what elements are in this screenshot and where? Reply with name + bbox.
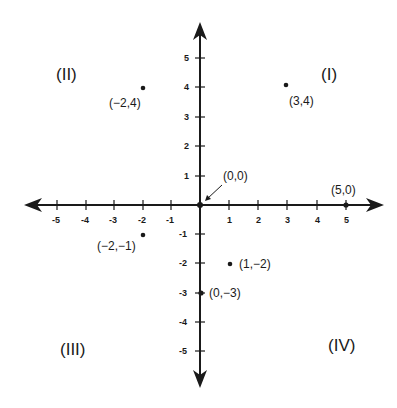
point-neg2-4 — [141, 86, 146, 91]
x-tick-label: -3 — [109, 216, 117, 225]
point-5-0 — [343, 202, 348, 207]
x-tick-label: 2 — [256, 216, 261, 225]
y-tick-label: -1 — [179, 230, 187, 239]
x-tick-label: 4 — [315, 216, 320, 225]
point-label: (0,−3) — [209, 287, 241, 299]
y-tick-label: -5 — [179, 347, 187, 356]
x-tick-label: 3 — [285, 216, 290, 225]
x-tick-label: -5 — [52, 216, 60, 225]
point-neg2-neg1 — [141, 233, 146, 238]
x-tick-label: -1 — [166, 216, 174, 225]
quadrant-label-iv: (IV) — [328, 337, 355, 354]
point-origin — [197, 202, 203, 208]
point-label: (3,4) — [289, 95, 314, 107]
y-tick-label: 5 — [184, 54, 189, 63]
y-tick-label: 3 — [184, 113, 189, 122]
quadrant-label-i: (I) — [321, 66, 337, 83]
y-tick-label: 2 — [184, 142, 189, 151]
x-tick-label: -2 — [138, 216, 146, 225]
y-tick-label: 1 — [184, 172, 189, 181]
x-tick-label: 1 — [227, 216, 232, 225]
y-tick-label: -3 — [179, 289, 187, 298]
y-tick-label: 4 — [184, 83, 189, 92]
point-label: (−2,4) — [109, 97, 141, 109]
x-tick-label: 5 — [344, 216, 349, 225]
point-label: (0,0) — [223, 170, 248, 182]
point-0-neg3 — [198, 290, 203, 295]
y-tick-label: -2 — [179, 259, 187, 268]
quadrant-label-iii: (III) — [60, 341, 86, 358]
point-1-neg2 — [228, 262, 233, 267]
point-label: (1,−2) — [239, 258, 271, 270]
x-tick-label: -4 — [81, 216, 89, 225]
point-label: (−2,−1) — [97, 240, 136, 252]
origin-pointer — [207, 185, 222, 199]
quadrant-label-ii: (II) — [56, 66, 77, 83]
point-3-4 — [284, 83, 289, 88]
point-label: (5,0) — [331, 184, 356, 196]
y-tick-label: -4 — [179, 318, 187, 327]
